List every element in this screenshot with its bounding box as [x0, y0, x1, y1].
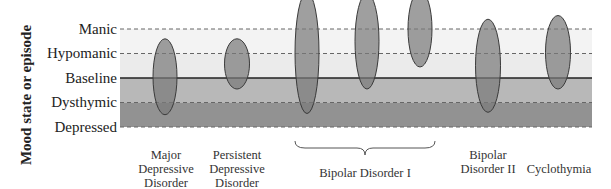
category-label-line: Depressive [209, 162, 265, 176]
episode-ellipse [408, 0, 432, 67]
category-label-line: Cyclothymia [527, 162, 592, 176]
category-label-line: Major [138, 148, 194, 162]
band-dysthymic-depressed [120, 103, 592, 128]
episode-ellipse [476, 19, 501, 112]
category-label-pdd: Persistent Depressive Disorder [209, 148, 265, 189]
category-label-line: Disorder [138, 176, 194, 189]
category-label-mdd: Major Depressive Disorder [138, 148, 194, 189]
band-baseline-dysthymic [120, 78, 592, 103]
bipolar-1-brace [295, 141, 435, 155]
episode-ellipse [225, 39, 250, 89]
episode-ellipse [295, 0, 319, 114]
category-label-line: Persistent [209, 148, 265, 162]
episode-ellipse [153, 39, 177, 115]
diagram-plot [0, 0, 611, 189]
category-label-line: Depressive [138, 162, 194, 176]
category-label-bipolar-2: Bipolar Disorder II [460, 148, 515, 176]
mood-disorder-diagram: Mood state or episode Manic Hypomanic Ba… [0, 0, 611, 189]
episode-ellipse [355, 0, 379, 89]
category-label-line: Disorder II [460, 162, 515, 176]
category-label-line: Bipolar [460, 148, 515, 162]
category-label-cyclothymia: Cyclothymia [527, 162, 592, 176]
category-label-line: Disorder [209, 176, 265, 189]
category-label-bipolar-1: Bipolar Disorder I [319, 166, 411, 180]
category-label-line: Bipolar Disorder I [319, 166, 411, 180]
episode-ellipse [546, 16, 571, 90]
